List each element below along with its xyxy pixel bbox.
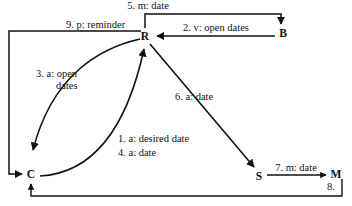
edge-1-label: 1. a: desired date <box>118 133 189 144</box>
edge-7-m-date: 7. m: date <box>267 162 326 175</box>
edge-2-open-dates: 2. v: open dates <box>157 22 275 36</box>
edge-5-label: 5. m: date <box>127 0 169 11</box>
edge-6-path <box>150 44 254 167</box>
edge-3-label-line2: dates <box>56 80 78 91</box>
edge-6-date: 6. a: date <box>150 44 254 167</box>
edge-9-label: 9. p: reminder <box>66 19 126 30</box>
edge-8-path <box>31 179 342 196</box>
sequence-diagram: 9. p: reminder 5. m: date 2. v: open dat… <box>0 0 352 206</box>
edge-8-label: 8. <box>327 181 335 192</box>
edge-8-return: 8. <box>31 179 342 196</box>
edge-3-label-line1: 3. a: open <box>36 68 78 79</box>
node-label-R: R <box>141 30 150 42</box>
edge-7-label: 7. m: date <box>275 162 317 173</box>
node-label-C: C <box>27 168 35 180</box>
diagram-canvas: 9. p: reminder 5. m: date 2. v: open dat… <box>0 0 352 206</box>
node-label-M: M <box>331 168 342 180</box>
edge-4-label: 4. a: date <box>118 147 157 158</box>
node-label-B: B <box>279 27 287 39</box>
edge-2-label: 2. v: open dates <box>183 22 249 33</box>
edge-6-label: 6. a: date <box>175 91 214 102</box>
node-label-S: S <box>256 170 262 182</box>
